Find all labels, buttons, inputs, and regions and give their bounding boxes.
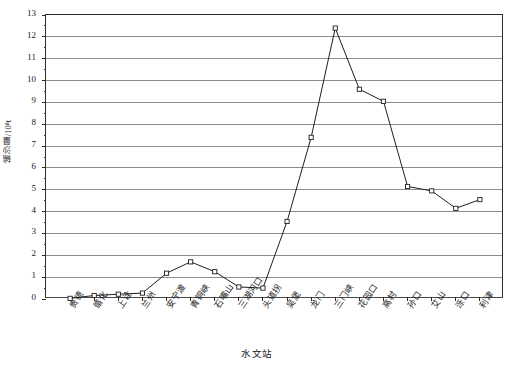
data-point-marker: [309, 135, 313, 139]
data-point-marker: [454, 206, 458, 210]
data-point-marker: [261, 286, 265, 290]
y-axis-tick-label: 6: [14, 161, 36, 171]
data-point-marker: [357, 87, 361, 91]
data-point-marker: [140, 291, 144, 295]
y-axis-tick-label: 10: [14, 74, 36, 84]
y-axis-tick-label: 1: [14, 270, 36, 280]
y-axis-tick-label: 4: [14, 205, 36, 215]
series-polyline: [70, 28, 480, 298]
data-point-marker: [478, 198, 482, 202]
sediment-discharge-line-chart: 输沙量/10⁸t 012345678910111213 贵德循化上诠兰州安宁渡青…: [0, 0, 514, 366]
y-axis-tick-label: 3: [14, 226, 36, 236]
data-series-line: [46, 15, 504, 299]
data-point-marker: [237, 285, 241, 289]
data-point-marker: [116, 292, 120, 296]
data-point-marker: [405, 184, 409, 188]
data-point-marker: [213, 270, 217, 274]
data-point-marker: [333, 26, 337, 30]
y-axis-tick-label: 11: [14, 52, 36, 62]
y-axis-title-text: 输沙量: [3, 136, 13, 163]
data-point-marker: [92, 293, 96, 297]
y-axis-tick-label: 13: [14, 8, 36, 18]
y-axis-title-unit: /10⁸t: [3, 120, 13, 136]
data-point-marker: [430, 189, 434, 193]
data-point-marker: [189, 260, 193, 264]
data-point-marker: [164, 271, 168, 275]
data-point-marker: [68, 296, 72, 300]
y-axis-tick-label: 8: [14, 117, 36, 127]
y-axis-tick-label: 12: [14, 30, 36, 40]
data-point-marker: [285, 219, 289, 223]
plot-area: [45, 14, 503, 298]
x-axis-title: 水文站: [0, 346, 514, 360]
y-axis-tick-label: 2: [14, 248, 36, 258]
y-axis-tick-label: 0: [14, 292, 36, 302]
y-axis-tick-label: 9: [14, 95, 36, 105]
y-axis-tick-label: 5: [14, 183, 36, 193]
data-point-marker: [381, 99, 385, 103]
y-axis-tick-label: 7: [14, 139, 36, 149]
